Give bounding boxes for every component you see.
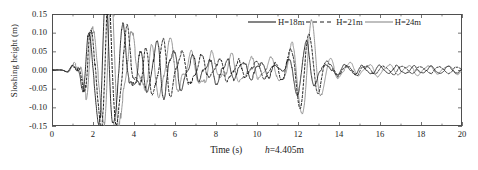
legend-label: H=18m bbox=[278, 17, 305, 27]
y-tick-label: -0.10 bbox=[13, 102, 47, 112]
y-tick-label: 0.05 bbox=[13, 46, 47, 56]
legend-item-0: H=18m bbox=[247, 17, 305, 27]
y-tick-label: 0.15 bbox=[13, 9, 47, 19]
x-tick-label: 10 bbox=[245, 129, 269, 139]
x-tick-label: 20 bbox=[450, 129, 474, 139]
y-tick-label: 0.00 bbox=[13, 65, 47, 75]
legend-item-1: H=21m bbox=[305, 17, 363, 27]
legend-label: H=24m bbox=[395, 17, 422, 27]
x-axis-label: Time (s) bbox=[210, 145, 242, 155]
legend-item-2: H=24m bbox=[364, 17, 422, 27]
legend-line-swatch bbox=[247, 18, 277, 26]
x-tick-label: 8 bbox=[204, 129, 228, 139]
y-tick-label: 0.10 bbox=[13, 27, 47, 37]
x-tick-label: 12 bbox=[286, 129, 310, 139]
legend-label: H=21m bbox=[336, 17, 363, 27]
x-tick-label: 16 bbox=[368, 129, 392, 139]
data-layer bbox=[52, 14, 462, 126]
x-axis-title: Time (s) h=4.405m bbox=[52, 145, 462, 155]
water-depth-value: =4.405m bbox=[270, 145, 304, 155]
x-tick-label: 2 bbox=[81, 129, 105, 139]
legend-line-swatch bbox=[305, 18, 335, 26]
x-tick-label: 18 bbox=[409, 129, 433, 139]
x-tick-label: 0 bbox=[40, 129, 64, 139]
legend-line-swatch bbox=[364, 18, 394, 26]
x-tick-label: 6 bbox=[163, 129, 187, 139]
y-tick-label: -0.05 bbox=[13, 83, 47, 93]
chart-legend: H=18mH=21mH=24m bbox=[247, 17, 422, 27]
x-tick-label: 4 bbox=[122, 129, 146, 139]
sloshing-height-time-history-chart: Sloshing height (m) Time (s) h=4.405m 0.… bbox=[0, 0, 478, 170]
x-tick-label: 14 bbox=[327, 129, 351, 139]
